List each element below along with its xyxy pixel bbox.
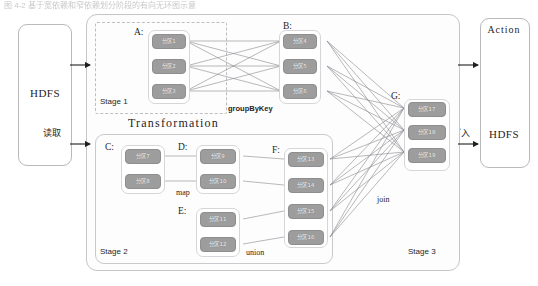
- partition-chip[interactable]: 分区4: [283, 34, 317, 49]
- partition-chip[interactable]: 分区3: [152, 84, 186, 99]
- partition-chip[interactable]: 分区15: [288, 204, 324, 219]
- partition-chip[interactable]: 分区6: [283, 84, 317, 99]
- partition-chip[interactable]: 分区13: [288, 152, 324, 167]
- partition-chip[interactable]: 分区2: [152, 59, 186, 74]
- partition-chip[interactable]: 分区7: [125, 149, 161, 164]
- rdd-E-tag: E:: [178, 206, 186, 216]
- op-groupbykey-label: groupByKey: [228, 104, 273, 113]
- partition-chip[interactable]: 分区5: [283, 59, 317, 74]
- rdd-G-tag: G:: [391, 91, 401, 101]
- op-join-label: join: [377, 195, 389, 204]
- rdd-F-tag: F:: [272, 145, 280, 155]
- partition-chip[interactable]: 分区17: [408, 102, 446, 117]
- rdd-C-tag: C:: [105, 142, 114, 152]
- diagram-canvas: 图 4-2 基于宽依赖和窄依赖划分阶段的有向无环图示意 HDFS 读取 Acti…: [0, 0, 538, 286]
- partition-chip[interactable]: 分区12: [200, 237, 236, 252]
- partition-chip[interactable]: 分区18: [408, 125, 446, 140]
- rdd-A-tag: A:: [134, 27, 144, 37]
- partition-chip[interactable]: 分区9: [200, 149, 236, 164]
- op-map-label: map: [176, 188, 190, 197]
- partition-chip[interactable]: 分区1: [152, 34, 186, 49]
- partition-chip[interactable]: 分区11: [200, 212, 236, 227]
- partition-chip[interactable]: 分区14: [288, 178, 324, 193]
- partition-chip[interactable]: 分区19: [408, 148, 446, 163]
- partition-chip[interactable]: 分区16: [288, 230, 324, 245]
- partition-chip[interactable]: 分区8: [125, 174, 161, 189]
- partition-chip[interactable]: 分区10: [200, 174, 236, 189]
- io-arrows: [0, 0, 538, 286]
- rdd-D-tag: D:: [178, 142, 188, 152]
- op-union-label: union: [246, 248, 264, 257]
